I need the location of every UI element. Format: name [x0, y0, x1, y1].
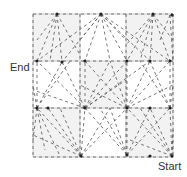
path-node	[83, 106, 86, 109]
path-grid-diagram	[0, 0, 187, 177]
path-node	[151, 12, 154, 15]
dashed-path-segment	[127, 61, 150, 108]
dashed-path-segment	[110, 108, 127, 155]
path-node	[168, 106, 171, 109]
dashed-path-segment	[81, 108, 110, 156]
dashed-path-segment	[37, 61, 70, 108]
dashed-path-segment	[150, 61, 170, 108]
dashed-path-segment	[127, 85, 173, 108]
path-node	[55, 12, 58, 15]
path-node	[35, 106, 38, 109]
path-node	[60, 60, 63, 63]
path-node	[83, 59, 86, 62]
dashed-path-segment	[33, 90, 85, 108]
path-node	[170, 154, 173, 157]
path-node	[99, 12, 102, 15]
dashed-path-segment	[127, 61, 170, 108]
path-node	[125, 59, 128, 62]
dashed-path-segment	[81, 108, 85, 156]
path-node	[148, 154, 151, 157]
dashed-path-segment	[37, 62, 62, 108]
end-label: End	[10, 62, 30, 73]
start-label: Start	[158, 161, 181, 172]
dashed-path-segment	[81, 108, 127, 156]
path-node	[125, 106, 128, 109]
path-node	[46, 106, 49, 109]
dashed-path-segment	[33, 85, 37, 108]
path-node	[148, 59, 151, 62]
dashed-path-segment	[140, 61, 170, 108]
dashed-path-segment	[80, 14, 101, 40]
dashed-path-segment	[101, 14, 110, 61]
path-node	[168, 59, 171, 62]
dashed-path-segment	[85, 14, 101, 61]
path-node	[35, 59, 38, 62]
path-node	[79, 154, 82, 157]
path-node	[125, 153, 128, 156]
grid-cell-shaded	[80, 61, 126, 108]
path-node	[170, 13, 173, 16]
grid-cell-shaded	[33, 108, 80, 157]
dashed-path-segment	[37, 61, 85, 108]
path-node	[148, 106, 151, 109]
dashed-path-segment	[100, 108, 127, 155]
dashed-path-segment	[85, 108, 127, 155]
